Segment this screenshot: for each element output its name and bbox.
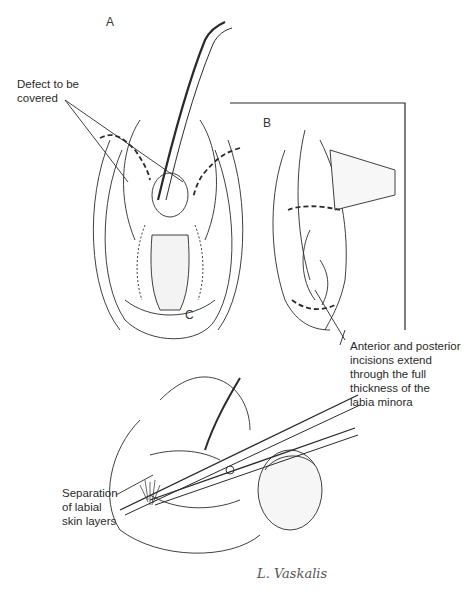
panel-label-a: A [106,15,114,29]
panel-b-drawing [273,130,395,345]
panel-label-b: B [263,116,271,130]
panel-a-drawing [65,22,243,505]
panel-label-c: C [185,308,194,322]
panel-c-drawing [110,377,360,553]
panel-b-frame [230,103,405,330]
artist-signature: L. Vaskalis [257,566,327,581]
callout-defect: Defect to be covered [17,77,79,105]
callout-separation: Separation of labial skin layers [62,486,118,528]
callout-incisions: Anterior and posterior incisions extend … [350,339,475,409]
